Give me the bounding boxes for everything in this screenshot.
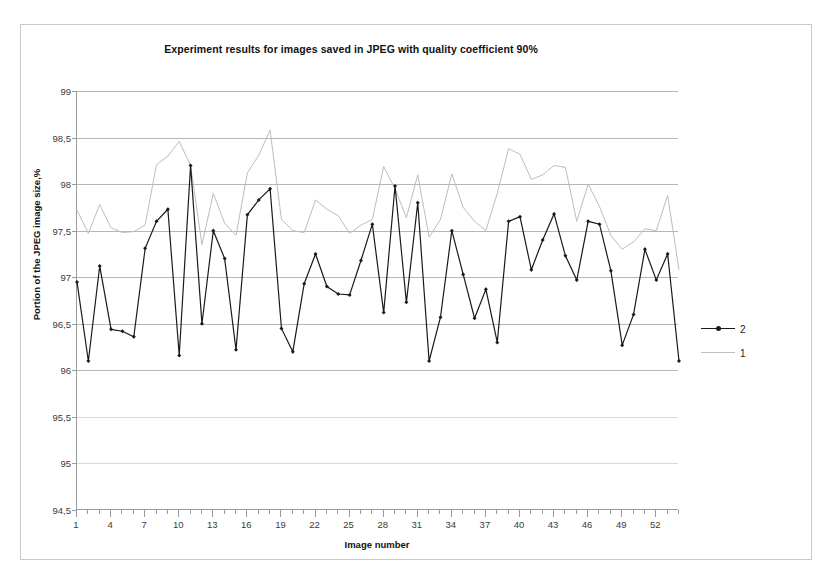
x-axis-tick-label: 7 [132,519,156,530]
data-point-marker [404,300,408,304]
data-point-marker [177,353,181,357]
data-point-marker [643,247,647,251]
legend-label: 2 [740,324,746,335]
data-point-marker [575,278,579,282]
x-axis-tick-label: 16 [234,519,258,530]
data-point-marker [302,282,306,286]
x-axis-tick-mark [349,510,350,517]
x-axis-tick-mark [178,510,179,517]
data-point-marker [518,215,522,219]
x-axis-tick-mark [394,510,395,514]
data-point-marker [597,222,601,226]
x-axis-tick-mark [439,510,440,514]
x-axis-tick-mark [156,510,157,514]
x-axis-tick-label: 10 [166,519,190,530]
data-point-marker [314,252,318,256]
x-axis-tick-mark [167,510,168,514]
x-axis-tick-label: 19 [268,519,292,530]
data-point-marker [484,287,488,291]
x-axis-tick-mark [462,510,463,514]
x-axis-tick-mark [496,510,497,514]
data-point-marker [654,278,658,282]
x-axis-tick-mark [485,510,486,517]
x-axis-tick-mark [121,510,122,514]
x-axis-tick-mark [337,510,338,514]
data-point-marker [211,229,215,233]
data-point-marker [427,359,431,363]
x-axis-tick-mark [655,510,656,517]
data-point-marker [98,264,102,268]
data-point-marker [677,359,681,363]
x-axis-tick-mark [598,510,599,514]
x-axis-tick-labels: 147101316192225283134374043464952 [76,519,678,535]
data-point-marker [541,238,545,242]
x-axis-tick-mark [553,510,554,517]
chart-title: Experiment results for images saved in J… [21,43,681,55]
data-point-marker [370,222,374,226]
legend-swatch-icon [701,347,735,359]
x-axis-tick-mark [451,510,452,517]
data-point-marker [234,348,238,352]
x-axis-tick-mark [576,510,577,514]
data-point-marker [120,329,124,333]
x-axis-tick-mark [633,510,634,514]
x-axis-tick-mark [87,510,88,514]
data-point-marker [189,163,193,167]
plot-area [76,91,678,510]
x-axis-tick-label: 28 [371,519,395,530]
data-point-marker [632,312,636,316]
data-point-marker [109,327,113,331]
data-point-marker [438,315,442,319]
data-point-marker [507,219,511,223]
data-point-marker [382,311,386,315]
data-point-marker [563,254,567,258]
x-axis-tick-label: 37 [473,519,497,530]
x-axis-tick-mark [326,510,327,514]
data-point-marker [393,184,397,188]
x-axis-tick-marks [76,510,678,518]
data-point-marker [461,272,465,276]
x-axis-tick-label: 31 [405,519,429,530]
x-axis-tick-mark [405,510,406,514]
data-point-marker [75,280,79,284]
x-axis-tick-mark [417,510,418,517]
data-point-marker [200,322,204,326]
x-axis-title: Image number [76,539,678,550]
chart-legend: 21 [701,317,801,365]
x-axis-tick-label: 4 [98,519,122,530]
x-axis-tick-mark [667,510,668,514]
legend-item-1[interactable]: 1 [701,341,801,365]
x-axis-tick-label: 52 [643,519,667,530]
x-axis-tick-mark [530,510,531,514]
x-axis-tick-mark [678,510,679,514]
data-point-marker [609,269,613,273]
legend-item-2[interactable]: 2 [701,317,801,341]
x-axis-tick-mark [360,510,361,514]
series-lines [77,91,679,510]
data-point-marker [291,350,295,354]
x-axis-tick-mark [564,510,565,514]
x-axis-tick-mark [212,510,213,517]
x-axis-tick-mark [542,510,543,514]
x-axis-tick-mark [508,510,509,514]
x-axis-tick-mark [428,510,429,514]
x-axis-tick-mark [292,510,293,514]
data-point-marker [143,246,147,250]
x-axis-tick-label: 13 [200,519,224,530]
x-axis-tick-mark [190,510,191,514]
y-axis-tick-marks [21,91,81,510]
x-axis-tick-mark [133,510,134,514]
x-axis-tick-mark [519,510,520,517]
data-point-marker [348,293,352,297]
x-axis-tick-mark [258,510,259,514]
x-axis-tick-mark [303,510,304,514]
series-line-1 [77,130,679,270]
data-point-marker [666,252,670,256]
data-point-marker [620,343,624,347]
x-axis-tick-label: 25 [337,519,361,530]
x-axis-tick-mark [201,510,202,514]
x-axis-tick-mark [621,510,622,517]
x-axis-tick-label: 1 [64,519,88,530]
x-axis-tick-label: 49 [609,519,633,530]
data-point-marker [132,335,136,339]
